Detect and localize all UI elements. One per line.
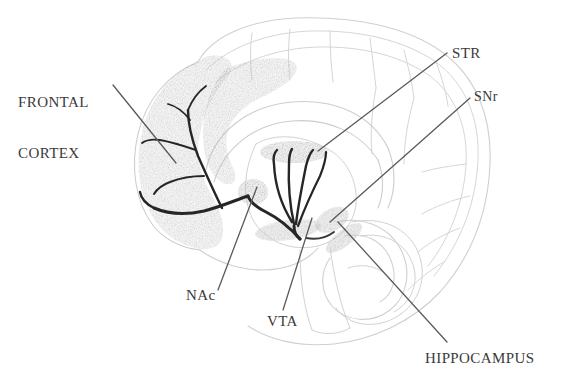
nucleus-accumbens-blob: [238, 179, 268, 205]
striatum-blob: [260, 141, 328, 163]
label-str: STR: [452, 45, 481, 62]
subcortical-nuclei-group: [238, 141, 366, 258]
brain-pathway-figure: FRONTAL CORTEX STR SNr NAc VTA HIPPOCAMP…: [0, 0, 562, 383]
label-hippocampus: HIPPOCAMPUS: [425, 350, 534, 367]
label-snr: SNr: [474, 88, 498, 105]
leader-nac: [218, 187, 257, 290]
label-frontal-cortex-line1: FRONTAL: [18, 94, 89, 111]
label-frontal-cortex-line2: CORTEX: [18, 145, 89, 162]
label-nac: NAc: [186, 287, 216, 304]
label-vta: VTA: [267, 313, 298, 330]
label-frontal-cortex: FRONTAL CORTEX: [18, 60, 89, 196]
leader-snr: [330, 98, 470, 222]
